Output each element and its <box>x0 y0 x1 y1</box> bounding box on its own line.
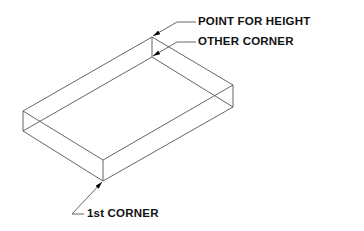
label-first-corner: 1st CORNER <box>87 208 159 220</box>
label-point-for-height: POINT FOR HEIGHT <box>198 16 310 28</box>
isometric-box-diagram <box>0 0 364 231</box>
bottom-face <box>23 57 233 181</box>
box-edges <box>23 37 233 181</box>
label-other-corner: OTHER CORNER <box>198 36 294 48</box>
leader-lines <box>72 22 196 214</box>
leader-point-for-height <box>153 22 196 36</box>
top-face <box>23 37 233 160</box>
leader-other-corner <box>153 42 196 56</box>
